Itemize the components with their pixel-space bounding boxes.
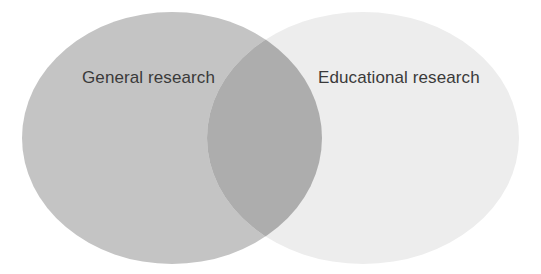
venn-canvas [0, 0, 541, 274]
set-label-educational-research: Educational research [318, 69, 480, 86]
venn-diagram: General research Educational research [0, 0, 541, 274]
set-label-general-research: General research [82, 69, 215, 86]
